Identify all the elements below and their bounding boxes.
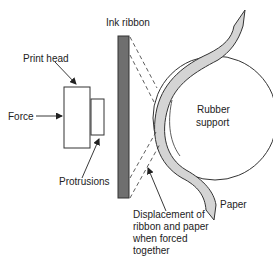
- displacement-label-line3: when forced: [132, 233, 187, 244]
- print-head-label: Print head: [23, 53, 69, 64]
- impact-printer-diagram: Ink ribbon Print head Force Protrusions …: [0, 0, 273, 259]
- print-head-body: [64, 87, 90, 148]
- rubber-support-label-line1: Rubber: [197, 104, 230, 115]
- displacement-label-line2: ribbon and paper: [133, 221, 209, 232]
- print-head-protrusion: [91, 99, 104, 135]
- rubber-support-label-line2: support: [196, 117, 230, 128]
- displacement-dashed-line-2: [130, 55, 154, 102]
- protrusions-label: Protrusions: [59, 176, 110, 187]
- displacement-label-line4: together: [133, 245, 170, 256]
- displacement-dashed-line-3: [130, 132, 156, 178]
- displacement-arrow: [148, 168, 166, 211]
- force-label: Force: [8, 111, 34, 122]
- ink-ribbon-label: Ink ribbon: [106, 17, 150, 28]
- paper-label: Paper: [220, 199, 247, 210]
- print-head-arrow: [55, 62, 76, 84]
- displacement-label-line1: Displacement of: [133, 209, 205, 220]
- ink-ribbon-bar: [118, 36, 129, 198]
